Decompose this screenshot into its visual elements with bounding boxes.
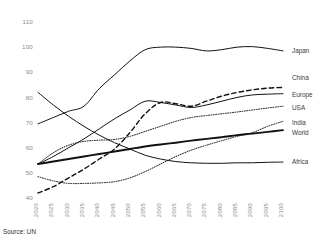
series-line-japan bbox=[38, 47, 283, 124]
legend-label-india: India bbox=[292, 119, 306, 126]
y-axis-tick-labels: 405060708090100110 bbox=[22, 18, 33, 201]
y-tick-label: 100 bbox=[22, 43, 33, 50]
legend-label-africa: Africa bbox=[292, 158, 309, 165]
x-axis-tick-labels: 2020202520302035204020452050205520602065… bbox=[33, 203, 284, 218]
series-lines bbox=[38, 47, 283, 193]
x-tick-label: 2025 bbox=[48, 203, 54, 218]
legend-label-japan: Japan bbox=[292, 47, 310, 55]
x-tick-label: 2030 bbox=[64, 203, 70, 218]
y-tick-label: 70 bbox=[26, 119, 34, 126]
source-note: Source: UN bbox=[3, 228, 36, 235]
x-tick-label: 2020 bbox=[33, 203, 39, 218]
x-tick-label: 2040 bbox=[94, 203, 100, 218]
x-tick-label: 2035 bbox=[79, 203, 85, 218]
series-line-china bbox=[38, 87, 283, 193]
y-tick-label: 50 bbox=[26, 169, 34, 176]
y-tick-label: 60 bbox=[26, 144, 34, 151]
x-tick-label: 2065 bbox=[171, 203, 177, 218]
series-line-europe bbox=[38, 94, 283, 164]
x-tick-label: 2090 bbox=[247, 203, 253, 218]
x-tick-label: 2070 bbox=[186, 203, 192, 218]
legend-label-china: China bbox=[292, 74, 309, 81]
legend-label-usa: USA bbox=[292, 104, 306, 111]
line-chart-svg: 405060708090100110 202020252030203520402… bbox=[0, 0, 328, 237]
y-tick-label: 40 bbox=[26, 194, 34, 201]
x-tick-label: 2080 bbox=[217, 203, 223, 218]
legend-label-world: World bbox=[292, 129, 309, 136]
x-tick-label: 2050 bbox=[125, 203, 131, 218]
chart-canvas: 405060708090100110 202020252030203520402… bbox=[0, 0, 328, 237]
x-tick-label: 2100 bbox=[278, 203, 284, 218]
legend: JapanChinaEuropeUSAIndiaWorldAfrica bbox=[292, 47, 313, 165]
x-tick-label: 2075 bbox=[201, 203, 207, 218]
y-tick-label: 110 bbox=[23, 18, 34, 25]
x-tick-label: 2085 bbox=[232, 203, 238, 218]
chart-figure: 405060708090100110 202020252030203520402… bbox=[0, 0, 328, 237]
x-tick-label: 2055 bbox=[140, 203, 146, 218]
x-tick-label: 2060 bbox=[156, 203, 162, 218]
legend-label-europe: Europe bbox=[292, 91, 313, 99]
y-tick-label: 80 bbox=[26, 94, 34, 101]
x-tick-label: 2095 bbox=[263, 203, 269, 218]
y-tick-label: 90 bbox=[26, 68, 34, 75]
x-tick-label: 2045 bbox=[110, 203, 116, 218]
